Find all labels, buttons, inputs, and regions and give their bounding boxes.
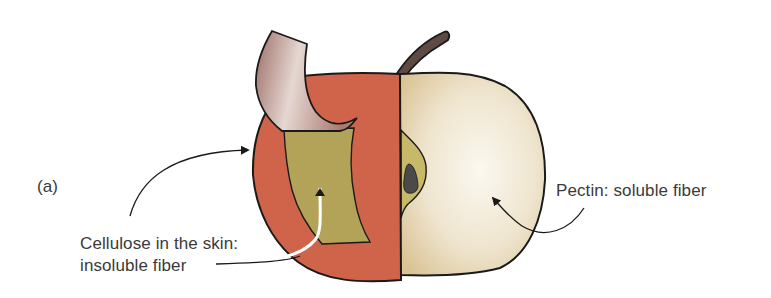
- pectin-label: Pectin: soluble fiber: [556, 180, 706, 201]
- cellulose-label-line1: Cellulose in the skin:: [80, 233, 238, 254]
- apple-stem: [394, 32, 449, 78]
- cellulose-label-line2: insoluble fiber: [80, 255, 186, 276]
- figure-apple-fiber: (a) Cellulose in the skin: insoluble fib…: [0, 0, 771, 298]
- panel-label: (a): [37, 176, 58, 197]
- cellulose-arrow-to-skin: [130, 150, 248, 216]
